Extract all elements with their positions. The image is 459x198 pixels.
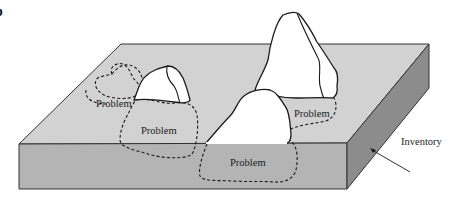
inventory-leader-line	[372, 150, 410, 172]
problem-label-4: Problem	[230, 157, 266, 168]
inventory-label: Inventory	[401, 136, 443, 147]
problem-label-1: Problem	[96, 98, 132, 109]
inventory-rocks-diagram: b Problem Problem Problem Problem	[0, 0, 459, 198]
problem-label-2: Problem	[141, 125, 177, 136]
problem-label-3: Problem	[294, 108, 330, 119]
slab-front-face	[19, 143, 347, 189]
panel-letter: b	[0, 4, 3, 19]
inventory-slab	[19, 44, 429, 189]
